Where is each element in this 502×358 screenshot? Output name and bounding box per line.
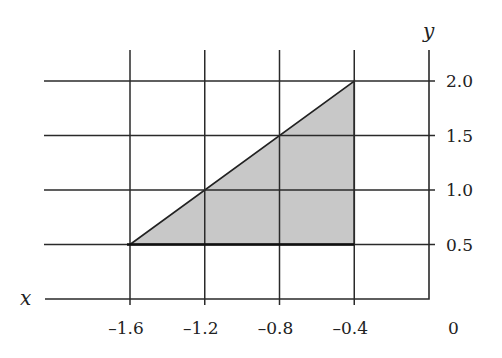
y-tick-label: 1.0: [446, 180, 473, 200]
y-tick-label: 1.5: [446, 126, 473, 146]
shaded-triangle-region: [130, 81, 354, 245]
origin-label: 0: [448, 318, 459, 338]
x-tick-label: –0.8: [258, 318, 294, 338]
x-axis-label: x: [20, 286, 31, 310]
x-tick-labels: –1.6–1.2–0.8–0.4: [108, 318, 368, 338]
y-tick-label: 2.0: [446, 71, 473, 91]
x-tick-label: –1.2: [183, 318, 219, 338]
x-tick-label: –1.6: [108, 318, 144, 338]
chart: –1.6–1.2–0.8–0.4 0.51.01.52.0 x y 0: [0, 0, 502, 358]
y-axis-label: y: [422, 19, 435, 43]
y-tick-labels: 0.51.01.52.0: [446, 71, 473, 255]
x-tick-label: –0.4: [332, 318, 368, 338]
y-tick-label: 0.5: [446, 235, 473, 255]
